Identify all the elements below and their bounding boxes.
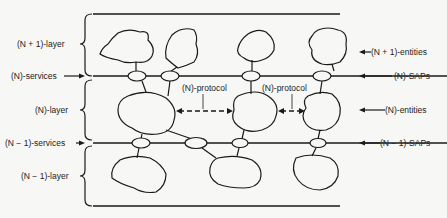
n-minus-1-sap-ellipse <box>310 139 326 148</box>
connector <box>332 64 334 71</box>
n-minus-1-entity-blob <box>293 155 338 190</box>
n-protocol-label: (N)-protocol <box>262 83 307 93</box>
connector <box>242 130 244 139</box>
n-minus-1-saps-label: (N − 1)-SAPs <box>380 138 430 148</box>
arrowhead-left <box>359 74 365 79</box>
n-protocol-label: (N)-protocol <box>182 83 227 93</box>
arrowhead-right <box>79 141 85 146</box>
n-minus-1-services-label: (N − 1)-services <box>5 138 65 148</box>
arrowhead-left <box>359 141 365 146</box>
n-entities-label: (N)-entities <box>385 105 427 115</box>
connector <box>202 148 216 158</box>
n-sap-ellipse <box>242 71 260 81</box>
n-plus-1-entity-blob <box>238 30 275 61</box>
n-minus-1-layer-label: (N − 1)-layer <box>21 171 68 181</box>
n-entity-blob <box>303 92 340 130</box>
n-plus-1-entity-blob <box>100 30 153 62</box>
arrowhead-left <box>359 50 365 55</box>
n-plus-1-entity-blob <box>166 29 198 68</box>
n-plus-1-entities-label: (N + 1)-entities <box>371 47 427 57</box>
arrowhead-left <box>278 108 284 114</box>
n-minus-1-sap-ellipse <box>232 139 248 148</box>
n-minus-1-sap-ellipse <box>185 138 207 149</box>
n-sap-ellipse <box>313 71 331 81</box>
arrowhead-left <box>359 108 365 113</box>
n-sap-ellipse <box>128 71 146 81</box>
n-services-label: (N)-services <box>11 71 57 81</box>
arrowhead-right <box>299 108 305 114</box>
n-entity-blob <box>233 92 277 131</box>
connector <box>168 81 170 96</box>
brace-n-layer <box>80 80 92 140</box>
brace-n-minus-1-layer <box>80 146 92 206</box>
n-plus-1-entity-blob <box>309 28 346 65</box>
n-plus-1-layer-label: (N + 1)-layer <box>17 39 64 49</box>
n-entity-blob <box>118 92 175 134</box>
connector <box>237 148 239 156</box>
arrowhead-right <box>227 108 233 114</box>
n-layer-label: (N)-layer <box>35 105 68 115</box>
brace-n-plus-1-layer <box>80 14 92 76</box>
connector <box>166 130 192 139</box>
n-sap-ellipse <box>161 71 179 81</box>
connector <box>142 81 146 92</box>
n-saps-label: (N)-SAPs <box>394 71 430 81</box>
connector <box>318 130 320 139</box>
n-minus-1-entity-blob <box>210 156 261 188</box>
arrowhead-left <box>176 108 182 114</box>
n-minus-1-entity-blob <box>112 156 166 192</box>
n-minus-1-sap-ellipse <box>132 138 150 148</box>
arrowhead-right <box>79 74 85 79</box>
